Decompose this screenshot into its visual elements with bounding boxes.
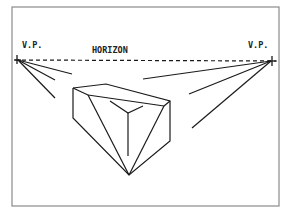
left-ray: [18, 60, 55, 98]
horizon-label: HORIZON: [92, 45, 128, 55]
left-rays: [18, 60, 72, 98]
right-ray: [189, 61, 271, 94]
right-rays: [143, 61, 271, 128]
right-ray: [143, 61, 271, 79]
right-vp-label: V.P.: [248, 40, 268, 50]
left-ray: [18, 60, 55, 80]
box-inner-top-edge: [73, 88, 88, 95]
horizon-line: [15, 60, 277, 61]
box-inner-right-diagonal: [129, 106, 164, 175]
frame: [12, 7, 279, 206]
box-inner-left-diagonal: [88, 95, 129, 175]
left-vp-label: V.P.: [22, 40, 42, 50]
left-ray: [18, 60, 72, 74]
diagram-canvas: V.P. HORIZON V.P.: [0, 0, 287, 214]
box-inner-right-top: [164, 101, 170, 106]
box: [73, 84, 170, 175]
right-ray: [192, 61, 271, 128]
perspective-diagram: V.P. HORIZON V.P.: [0, 0, 287, 214]
